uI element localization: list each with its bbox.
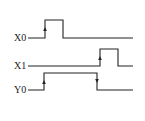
signal-y0: Y0 bbox=[14, 73, 133, 95]
signal-label-x0: X0 bbox=[14, 32, 26, 43]
signal-label-y0: Y0 bbox=[14, 84, 26, 95]
waveform-x1 bbox=[28, 49, 133, 66]
signal-x1: X1 bbox=[14, 49, 133, 71]
waveform-x0 bbox=[28, 20, 133, 38]
signal-x0: X0 bbox=[14, 20, 133, 43]
rising-edge-arrow-icon bbox=[43, 27, 47, 31]
rising-edge-arrow-icon bbox=[42, 80, 46, 84]
signal-label-x1: X1 bbox=[14, 60, 26, 71]
timing-diagram: X0 X1 Y0 bbox=[0, 0, 145, 121]
rising-edge-arrow-icon bbox=[98, 56, 102, 60]
falling-edge-arrow-icon bbox=[95, 79, 99, 83]
